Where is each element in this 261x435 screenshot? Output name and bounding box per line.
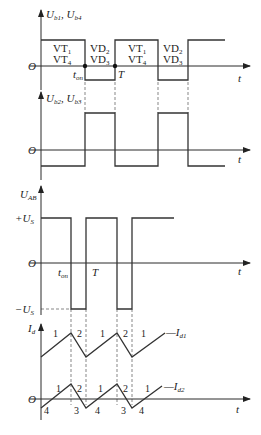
ton-label: ton bbox=[58, 266, 69, 280]
segment-label: 3 bbox=[121, 405, 126, 416]
segment-label: 1 bbox=[100, 328, 105, 339]
T-label: T bbox=[118, 68, 125, 80]
segment-label: 2 bbox=[77, 328, 82, 339]
ton-dot bbox=[83, 64, 87, 68]
y-label: Ub1, Ub4 bbox=[46, 8, 82, 22]
t-label: t bbox=[238, 265, 242, 277]
origin-label: O bbox=[28, 60, 36, 72]
neg-level-label: −US bbox=[15, 303, 34, 317]
origin-label: O bbox=[28, 393, 36, 405]
id1-label: —Id1 bbox=[165, 326, 186, 340]
segment-label: 4 bbox=[139, 405, 144, 416]
T-dot bbox=[113, 64, 117, 68]
waveform-diagram: Ub1, Ub4 O t ton T VT1 VT4 VD2 VD3 VT1 V… bbox=[0, 0, 261, 435]
T-label: T bbox=[92, 266, 99, 278]
panel-uab: UAB +US O −US t ton T bbox=[15, 186, 250, 317]
segment-label: 2 bbox=[77, 383, 82, 394]
segment-label: 1 bbox=[145, 383, 150, 394]
t-label: t bbox=[238, 72, 242, 84]
y-label: Ub2, Ub3 bbox=[46, 92, 82, 106]
segment-label: 4 bbox=[95, 405, 100, 416]
panel-id: Id O t —Id1 —Id2 1 2 1 2 1 1 2 1 2 1 4 3… bbox=[27, 322, 250, 420]
id2-label: —Id2 bbox=[163, 380, 185, 394]
segment-label: 2 bbox=[123, 328, 128, 339]
origin-label: O bbox=[28, 257, 36, 269]
panel-ub2-ub3: Ub2, Ub3 O t bbox=[28, 92, 250, 180]
segment-label: 1 bbox=[53, 328, 58, 339]
segment-label: 1 bbox=[56, 383, 61, 394]
t-label: t bbox=[236, 403, 240, 415]
segment-label: 1 bbox=[98, 383, 103, 394]
segment-label: 4 bbox=[44, 405, 49, 416]
segment-label: 3 bbox=[74, 405, 79, 416]
ub2-waveform bbox=[41, 113, 225, 166]
origin-label: O bbox=[28, 144, 36, 156]
y-label: UAB bbox=[20, 188, 37, 202]
ton-label: ton bbox=[73, 68, 84, 82]
y-label: Id bbox=[27, 322, 36, 336]
panel-ub1-ub4: Ub1, Ub4 O t ton T VT1 VT4 VD2 VD3 VT1 V… bbox=[28, 8, 250, 90]
t-label: t bbox=[238, 153, 242, 165]
segment-label: 2 bbox=[123, 383, 128, 394]
pos-level-label: +US bbox=[15, 212, 34, 226]
segment-label: 1 bbox=[141, 328, 146, 339]
